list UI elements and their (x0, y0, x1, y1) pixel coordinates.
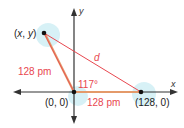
x-axis-right-arrow-icon (170, 89, 178, 95)
left-side-label: 128 pm (18, 66, 51, 77)
angle-label: 117° (78, 79, 98, 90)
point-xy-label: (x, y) (14, 28, 36, 39)
point-128-label: (128, 0) (135, 97, 169, 108)
x-axis-left-arrow-icon (13, 89, 21, 95)
hypotenuse-label: d (94, 52, 100, 63)
y-axis-down-arrow-icon (71, 116, 77, 124)
point-xy (42, 31, 47, 36)
y-axis-label: y (78, 6, 84, 16)
y-axis-up-arrow-icon (71, 8, 77, 16)
point-128-0 (139, 90, 144, 95)
x-axis-label: x (170, 79, 176, 89)
point-origin (72, 90, 77, 95)
bottom-side-label: 128 pm (87, 97, 120, 108)
origin-label: (0, 0) (45, 97, 68, 108)
triangle-diagram: (x, y) y x d 128 pm 117° 128 pm (0, 0) (… (0, 0, 184, 128)
